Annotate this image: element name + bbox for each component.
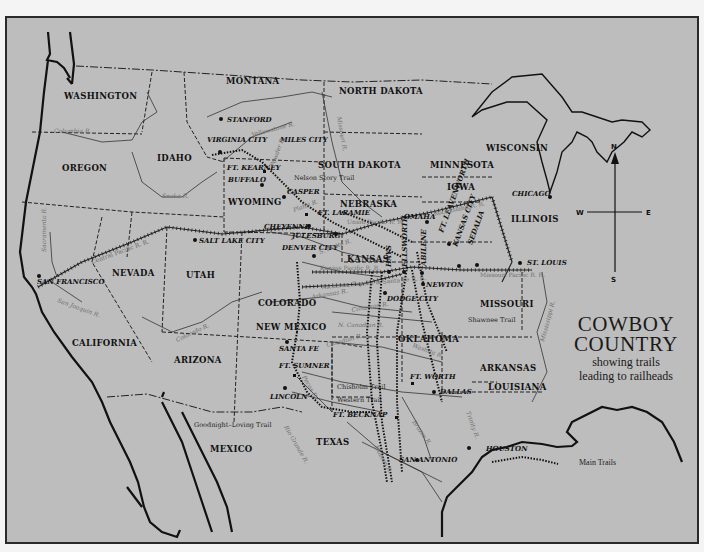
svg-text:HAYS: HAYS [384, 245, 393, 268]
svg-text:FT. WORTH: FT. WORTH [409, 372, 456, 381]
compass-e: E [646, 209, 651, 217]
svg-text:TEXAS: TEXAS [316, 437, 349, 447]
great-lakes [472, 74, 650, 192]
svg-text:ST. LOUIS: ST. LOUIS [527, 258, 567, 267]
compass-w: W [576, 209, 584, 217]
svg-text:Western Trail: Western Trail [337, 396, 382, 404]
svg-text:FT. BECKNAP: FT. BECKNAP [332, 410, 388, 419]
svg-text:Shawnee Trail: Shawnee Trail [468, 316, 516, 324]
svg-text:UTAH: UTAH [186, 270, 215, 280]
svg-text:CALIFORNIA: CALIFORNIA [72, 338, 137, 348]
svg-text:Chisholm Trail: Chisholm Trail [337, 383, 385, 391]
svg-text:JULESBURG: JULESBURG [290, 231, 341, 240]
svg-text:MEXICO: MEXICO [210, 444, 253, 454]
svg-text:Trinity R.: Trinity R. [464, 410, 481, 440]
svg-text:FT. LARAMIE: FT. LARAMIE [317, 208, 371, 217]
svg-text:NEWTON: NEWTON [425, 280, 464, 289]
svg-text:CHEYENNE: CHEYENNE [264, 222, 311, 231]
svg-text:Central Pacific R. R.: Central Pacific R. R. [90, 237, 150, 265]
svg-text:ARKANSAS: ARKANSAS [479, 363, 536, 373]
svg-text:STANFORD: STANFORD [227, 115, 273, 124]
svg-text:Platte R.: Platte R. [291, 197, 319, 213]
svg-text:N. Canadian R.: N. Canadian R. [337, 321, 384, 328]
legend-main-trails: Main Trails [579, 458, 616, 467]
svg-text:SAN ANTONIO: SAN ANTONIO [399, 455, 458, 464]
svg-text:COLORADO: COLORADO [258, 298, 317, 308]
svg-text:NEVADA: NEVADA [112, 268, 155, 278]
svg-text:Rio Grande R.: Rio Grande R. [283, 423, 311, 464]
svg-text:DODGE CITY: DODGE CITY [386, 294, 439, 303]
compass-s: S [611, 276, 616, 284]
svg-text:Union Pacific R. R.: Union Pacific R. R. [347, 218, 404, 225]
svg-text:Colorado R.: Colorado R. [174, 321, 210, 343]
svg-text:Atchison, Topeka & Santa Fe R.: Atchison, Topeka & Santa Fe R. R. [320, 274, 426, 291]
svg-text:ILLINOIS: ILLINOIS [511, 214, 559, 224]
svg-text:Sacramento R.: Sacramento R. [40, 207, 47, 252]
svg-text:WISCONSIN: WISCONSIN [485, 143, 548, 153]
svg-text:Brazos R.: Brazos R. [411, 418, 434, 447]
svg-text:FT. SUMNER: FT. SUMNER [278, 361, 330, 370]
compass-rose: N S E W [576, 143, 651, 284]
svg-text:ABILENE: ABILENE [419, 229, 428, 267]
svg-text:Missouri R.: Missouri R. [336, 115, 349, 152]
svg-text:CASPER: CASPER [287, 187, 320, 196]
svg-text:Nelson Story Trail: Nelson Story Trail [294, 174, 354, 182]
map-subtitle-line2: leading to railheads [556, 370, 696, 382]
svg-text:SANTA FE: SANTA FE [279, 344, 320, 353]
svg-text:ARIZONA: ARIZONA [173, 355, 222, 365]
svg-text:Canadian R.: Canadian R. [325, 332, 363, 348]
svg-text:MISSOURI: MISSOURI [480, 299, 534, 309]
svg-text:CHICAGO: CHICAGO [512, 189, 551, 198]
svg-text:MILES CITY: MILES CITY [279, 135, 329, 144]
compass-n: N [611, 143, 617, 151]
svg-text:OKLAHOMA: OKLAHOMA [398, 334, 459, 344]
svg-text:WASHINGTON: WASHINGTON [63, 91, 137, 101]
svg-text:LINCOLN: LINCOLN [269, 392, 308, 401]
svg-text:SOUTH DAKOTA: SOUTH DAKOTA [318, 160, 401, 170]
svg-text:Snake R.: Snake R. [162, 192, 189, 199]
map-title: COWBOY [556, 314, 696, 334]
svg-text:VIRGINIA CITY: VIRGINIA CITY [207, 135, 268, 144]
svg-text:NEW MEXICO: NEW MEXICO [256, 322, 327, 332]
svg-text:NORTH DAKOTA: NORTH DAKOTA [339, 86, 423, 96]
map-subtitle-line1: showing trails [556, 356, 696, 368]
svg-text:KANSAS: KANSAS [347, 254, 389, 264]
canada-border [76, 66, 492, 84]
svg-text:Columbia R.: Columbia R. [54, 127, 91, 134]
svg-text:Kansas Pacific R. R.: Kansas Pacific R. R. [320, 264, 380, 271]
svg-text:WYOMING: WYOMING [227, 197, 282, 207]
svg-text:OREGON: OREGON [62, 163, 107, 173]
svg-text:SALT LAKE CITY: SALT LAKE CITY [199, 236, 266, 245]
map-title-block: COWBOY COUNTRY showing trails leading to… [556, 314, 696, 382]
svg-text:HOUSTON: HOUSTON [485, 444, 528, 453]
svg-text:LOUISIANA: LOUISIANA [488, 382, 547, 392]
svg-text:Missouri Pacific R. R.: Missouri Pacific R. R. [480, 271, 545, 278]
svg-text:MONTANA: MONTANA [226, 76, 280, 86]
svg-text:SAN FRANCISCO: SAN FRANCISCO [37, 277, 105, 286]
map-title-line2: COUNTRY [556, 334, 696, 354]
svg-text:IDAHO: IDAHO [157, 153, 192, 163]
svg-text:DALLAS: DALLAS [439, 387, 472, 396]
svg-text:Nueces R.: Nueces R. [373, 443, 395, 474]
svg-text:Goodnight–Loving Trail: Goodnight–Loving Trail [194, 421, 272, 429]
svg-text:Cimarron R.: Cimarron R. [351, 300, 389, 313]
svg-text:BUFFALO: BUFFALO [227, 175, 267, 184]
